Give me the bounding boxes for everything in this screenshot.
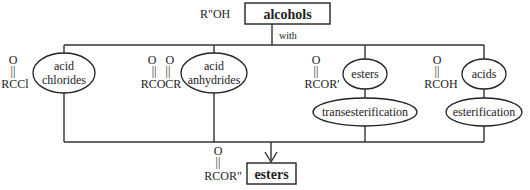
ester-reagent-formula-bond: ||: [314, 64, 319, 78]
acid-chloride-formula-bond: ||: [11, 64, 16, 78]
acid-chloride-formula: RCCl: [1, 77, 29, 91]
alcohol-formula: R"OH: [200, 7, 231, 21]
alcohols-label: alcohols: [263, 7, 312, 22]
acid-anhydrides-label-2: anhydrides: [188, 73, 241, 87]
acid-chlorides-label-1: acid: [54, 59, 74, 73]
acid-chlorides-label-2: chlorides: [42, 73, 86, 87]
acid-formula: RCOH: [424, 77, 458, 91]
anhydride-formula: RCOCR: [141, 77, 182, 91]
ester-reagent-formula: RCOR': [305, 77, 340, 91]
acid-anhydrides-label-1: acid: [204, 59, 224, 73]
esterification-label: esterification: [453, 105, 516, 119]
esters-reagent-label: esters: [351, 67, 379, 81]
ester-synthesis-diagram: R"OH alcohols with acid chlorides O || R…: [0, 0, 530, 190]
acid-formula-bond: ||: [435, 64, 440, 78]
transesterification-label: transesterification: [322, 105, 408, 119]
acids-label: acids: [472, 67, 497, 81]
product-formula-bond: ||: [216, 155, 221, 169]
anhydride-formula-bond: || ||: [152, 64, 171, 78]
esters-product-label: esters: [254, 167, 289, 182]
with-label: with: [279, 30, 297, 41]
product-formula: RCOR": [204, 169, 242, 183]
